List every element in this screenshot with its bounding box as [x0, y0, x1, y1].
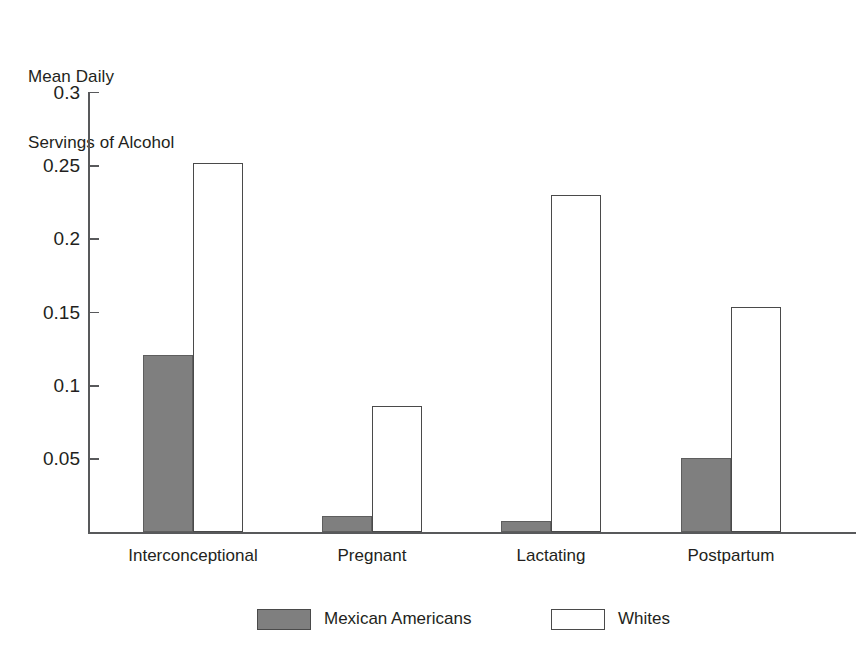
legend-item-whites: Whites: [551, 606, 670, 632]
bar: [551, 195, 601, 532]
y-axis-tick: [88, 458, 99, 460]
legend-item-mexican-americans: Mexican Americans: [257, 606, 471, 632]
legend-label-mexican-americans: Mexican Americans: [324, 609, 471, 629]
x-axis-category-label: Interconceptional: [103, 546, 283, 566]
legend-swatch-mexican-americans: [257, 609, 311, 630]
x-axis-category-label: Pregnant: [282, 546, 462, 566]
bar: [193, 163, 243, 533]
legend-label-whites: Whites: [618, 609, 670, 629]
y-axis-tick-label: 0.1: [4, 376, 80, 395]
y-axis-tick: [88, 238, 99, 240]
bar: [322, 516, 372, 532]
x-axis-category-label: Lactating: [461, 546, 641, 566]
x-axis-category-label: Postpartum: [641, 546, 821, 566]
bar: [501, 521, 551, 533]
y-axis-tick-label: 0.15: [4, 303, 80, 322]
chart-legend: Mexican Americans Whites: [0, 604, 866, 638]
bar: [681, 458, 731, 533]
legend-swatch-whites: [551, 609, 605, 630]
y-axis-tick: [88, 165, 99, 167]
y-axis-tick-label: 0.25: [4, 156, 80, 175]
plot-area: 0.050.10.150.20.250.3 InterconceptionalP…: [0, 0, 866, 650]
y-axis-tick: [88, 385, 99, 387]
bar: [143, 355, 193, 532]
y-axis-tick: [88, 92, 99, 94]
bar: [731, 307, 781, 533]
bar-chart: Mean Daily Servings of Alcohol 0.050.10.…: [0, 0, 866, 650]
bar: [372, 406, 422, 532]
y-axis-tick: [88, 312, 99, 314]
y-axis-tick-label: 0.2: [4, 229, 80, 248]
y-axis-tick-label: 0.3: [4, 83, 80, 102]
y-axis-tick-label: 0.05: [4, 449, 80, 468]
